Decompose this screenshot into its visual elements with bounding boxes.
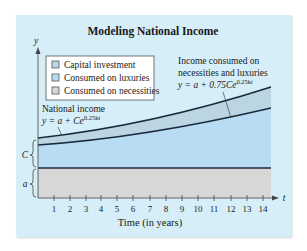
x-axis-arrow-icon bbox=[272, 196, 279, 201]
necessities-area bbox=[38, 168, 271, 198]
svg-text:9: 9 bbox=[180, 204, 185, 214]
svg-text:11: 11 bbox=[210, 204, 219, 214]
y-axis-arrow-icon bbox=[36, 47, 41, 54]
x-axis-label: t bbox=[283, 193, 286, 203]
svg-text:13: 13 bbox=[243, 204, 253, 214]
y-axis-label: y bbox=[33, 36, 39, 46]
chart-title: Modeling National Income bbox=[88, 25, 219, 38]
legend-swatch-capital bbox=[52, 61, 59, 68]
x-tick-labels: 1 2 3 4 5 6 7 8 9 10 11 12 13 14 bbox=[52, 204, 268, 214]
svg-text:Income consumed on: Income consumed on bbox=[178, 56, 260, 66]
a-bracket-label: a bbox=[23, 179, 28, 189]
svg-text:1: 1 bbox=[52, 204, 57, 214]
svg-text:2: 2 bbox=[68, 204, 73, 214]
svg-text:necessities and luxuries: necessities and luxuries bbox=[178, 68, 268, 78]
legend-swatch-luxuries bbox=[52, 74, 59, 81]
svg-text:National income: National income bbox=[42, 104, 105, 114]
a-bracket bbox=[30, 169, 36, 197]
svg-text:y = a + Ce0.25kt: y = a + Ce0.25kt bbox=[41, 114, 100, 126]
legend-item-necessities: Consumed on necessities bbox=[64, 86, 160, 96]
svg-text:12: 12 bbox=[227, 204, 236, 214]
legend: Capital investment Consumed on luxuries … bbox=[46, 56, 160, 100]
svg-text:10: 10 bbox=[194, 204, 204, 214]
x-axis-title: Time (in years) bbox=[118, 217, 183, 229]
svg-text:14: 14 bbox=[259, 204, 269, 214]
c-bracket bbox=[30, 140, 36, 167]
svg-text:6: 6 bbox=[131, 204, 136, 214]
svg-text:4: 4 bbox=[99, 204, 104, 214]
svg-text:7: 7 bbox=[148, 204, 153, 214]
legend-swatch-necessities bbox=[52, 87, 59, 94]
svg-text:3: 3 bbox=[84, 204, 89, 214]
chart-svg: Modeling National Income y t 1 2 3 4 5 6… bbox=[0, 0, 307, 251]
c-bracket-label: C bbox=[22, 150, 29, 160]
svg-text:y = a + 0.75Ce0.25kt: y = a + 0.75Ce0.25kt bbox=[177, 78, 253, 90]
svg-text:5: 5 bbox=[115, 204, 120, 214]
svg-text:8: 8 bbox=[164, 204, 169, 214]
legend-item-capital: Capital investment bbox=[64, 60, 136, 70]
legend-item-luxuries: Consumed on luxuries bbox=[64, 73, 150, 83]
